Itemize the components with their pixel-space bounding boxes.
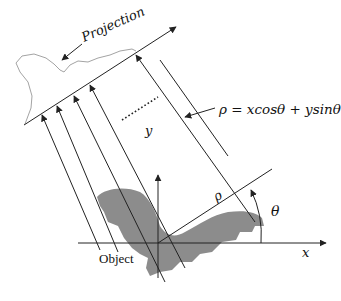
ray-5 [136, 55, 255, 222]
ray-2 [57, 106, 118, 252]
rho-ray-line [160, 60, 228, 156]
more-rays-ellipsis [122, 97, 158, 120]
projection-line [24, 27, 176, 125]
theta-label: θ [271, 203, 280, 219]
rho-label: ρ [210, 187, 225, 204]
y-axis-label: y [144, 123, 153, 138]
projection-outline [16, 49, 136, 124]
object-label: Object [99, 251, 134, 266]
x-axis-label: x [302, 245, 310, 260]
equation-label: ρ = xcosθ + ysinθ [218, 101, 341, 117]
radon-diagram: Projection ρ = xcosθ + ysinθ Object x y … [0, 0, 341, 301]
projection-label: Projection [78, 4, 147, 46]
projection-pointer [62, 44, 82, 60]
ray-1 [42, 115, 100, 250]
